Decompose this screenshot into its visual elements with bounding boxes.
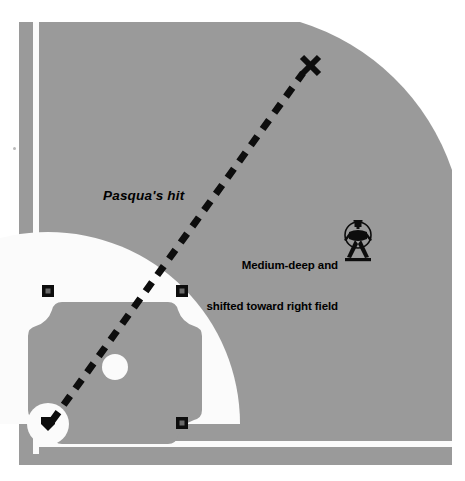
hit-trajectory-label: Pasqua's hit bbox=[103, 188, 184, 204]
fielder-position-line-2: shifted toward right field bbox=[190, 300, 338, 314]
fielder-position-label: Medium-deep and shifted toward right fie… bbox=[190, 232, 338, 341]
scan-speck bbox=[13, 147, 16, 150]
baseball-field-diagram: Pasqua's hit Medium-deep and shifted tow… bbox=[0, 0, 465, 481]
fielder-position-line-1: Medium-deep and bbox=[190, 259, 338, 273]
base-first bbox=[176, 417, 188, 429]
base-second bbox=[176, 285, 188, 297]
crouching-fielder-icon bbox=[340, 216, 376, 264]
base-third bbox=[42, 285, 54, 297]
pitchers-mound bbox=[102, 354, 128, 380]
